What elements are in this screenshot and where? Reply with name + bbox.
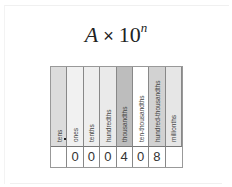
- column-header-hundred-thousandths: hundred-thousandths: [149, 67, 165, 147]
- column-label: tens: [55, 130, 62, 142]
- digit-cell-hundredths: 0: [100, 147, 116, 167]
- digit-cell-thousandths: 4: [117, 147, 133, 167]
- formula-ten: 10: [119, 22, 141, 47]
- column-header-hundredths: hundredths: [100, 67, 116, 147]
- scientific-notation-formula: A×10n: [0, 22, 232, 48]
- column-label: tenths: [88, 124, 95, 142]
- column-header-millionths: millionths: [166, 67, 182, 147]
- column-label: ones: [72, 128, 79, 142]
- decimal-point: [64, 138, 66, 140]
- column-label: thousandths: [121, 107, 128, 142]
- column-label: millionths: [170, 115, 177, 142]
- divider: [10, 183, 222, 184]
- column-header-ones: ones: [67, 67, 83, 147]
- formula-base-variable: A: [85, 22, 98, 47]
- digit-cell-ones: 0: [67, 147, 83, 167]
- digit-cell-tenths: 0: [84, 147, 100, 167]
- digit-cell-tens: [51, 147, 67, 167]
- column-header-thousandths: thousandths: [117, 67, 133, 147]
- digit-cell-ten-thousandths: 0: [133, 147, 149, 167]
- digit-cell-hundred-thousandths: 8: [149, 147, 165, 167]
- formula-exponent: n: [141, 20, 148, 35]
- column-header-tens: tens: [51, 67, 67, 147]
- formula-times-sign: ×: [103, 26, 114, 46]
- place-value-chart: tensonestenthshundredthsthousandthsten-t…: [50, 66, 183, 168]
- column-header-ten-thousandths: ten-thousandths: [133, 67, 149, 147]
- column-label: hundredths: [104, 109, 111, 142]
- column-header-tenths: tenths: [84, 67, 100, 147]
- digit-cell-millionths: [166, 147, 182, 167]
- column-label: hundred-thousandths: [153, 81, 160, 142]
- column-label: ten-thousandths: [137, 95, 144, 142]
